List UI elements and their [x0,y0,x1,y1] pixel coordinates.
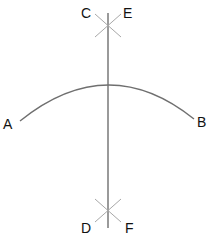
label-e: E [123,5,132,21]
label-f: F [125,220,134,236]
label-d: D [81,220,91,236]
label-c: C [81,5,91,21]
arc-ab [20,85,194,121]
label-a: A [3,116,13,132]
construction-diagram: C E A B D F [0,0,214,236]
label-b: B [197,114,206,130]
